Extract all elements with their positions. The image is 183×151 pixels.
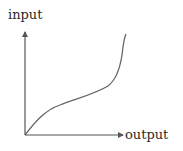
y-axis-label: input [8, 8, 42, 21]
diagram: input output [0, 0, 183, 151]
response-curve [25, 34, 126, 135]
x-axis-label: output [125, 128, 168, 141]
